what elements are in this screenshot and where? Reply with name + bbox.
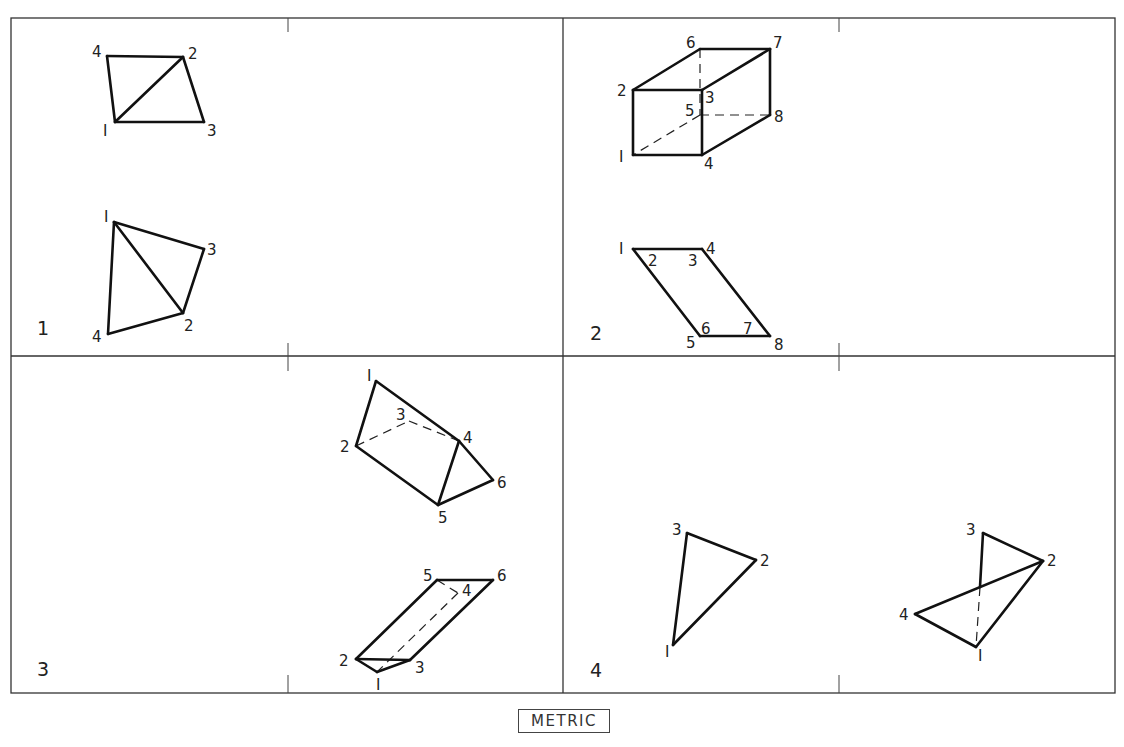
vertex-label: I	[367, 367, 371, 385]
vertex-label: 4	[899, 606, 909, 624]
visible-edge	[983, 533, 1043, 561]
vertex-label: 4	[462, 582, 472, 600]
diagram-canvas: 142I3I3242672358I4I42367583I3426556423I4…	[0, 0, 1124, 747]
vertex-label: I	[665, 643, 669, 661]
visible-edge	[438, 441, 459, 505]
vertex-label: I	[376, 676, 380, 694]
vertex-label: 5	[423, 567, 433, 585]
visible-edge	[702, 49, 770, 90]
panel-2: 2672358I4I4236758	[590, 34, 784, 354]
pictorial-view: 672358I4	[617, 34, 784, 173]
vertex-label: 2	[617, 82, 627, 100]
vertex-label: 2	[760, 552, 770, 570]
visible-edge	[702, 115, 770, 155]
panel-1: 142I3I324	[37, 43, 217, 346]
visible-edge	[356, 446, 438, 505]
visible-edge	[356, 659, 377, 672]
hidden-edge	[356, 421, 409, 446]
panel-4: 432I324I	[590, 521, 1057, 681]
pictorial-view: I34265	[340, 367, 507, 527]
visible-edge	[108, 222, 114, 334]
vertex-label: 8	[774, 108, 784, 126]
vertex-label: 3	[207, 122, 217, 140]
visible-edge	[980, 533, 983, 587]
visible-edge	[673, 560, 756, 645]
vertex-label: 2	[340, 438, 350, 456]
vertex-label: I	[619, 148, 623, 166]
vertex-label: 8	[774, 336, 784, 354]
vertex-label: I	[104, 208, 108, 226]
vertex-label: 3	[672, 521, 682, 539]
vertex-label: 4	[706, 240, 716, 258]
visible-edge	[356, 659, 410, 660]
visible-edge	[915, 614, 976, 647]
vertex-label: 6	[497, 474, 507, 492]
visible-edge	[410, 580, 493, 660]
vertex-label: 4	[463, 429, 473, 447]
vertex-label: 6	[497, 567, 507, 585]
visible-edge	[114, 222, 183, 313]
front-view: 32I	[665, 521, 770, 661]
vertex-label: 6	[686, 34, 696, 52]
visible-edge	[183, 249, 204, 313]
vertex-label: 5	[685, 102, 695, 120]
panel-frame	[11, 18, 1115, 693]
top-view: 56423I	[339, 567, 507, 694]
vertex-label: I	[103, 122, 107, 140]
vertex-label: 2	[1047, 552, 1057, 570]
vertex-label: 3	[415, 659, 425, 677]
metric-label: METRIC	[518, 709, 610, 733]
vertex-label: 5	[686, 334, 696, 352]
vertex-label: 2	[648, 252, 658, 270]
panel-number: 3	[37, 658, 49, 680]
front-view: I324	[92, 208, 217, 346]
visible-edge	[687, 533, 756, 560]
vertex-label: I	[619, 240, 623, 258]
visible-edge	[107, 56, 115, 122]
vertex-label: 4	[92, 43, 102, 61]
visible-edge	[114, 222, 204, 249]
hidden-edge	[437, 580, 458, 593]
vertex-label: 5	[438, 509, 448, 527]
visible-edge	[115, 57, 183, 122]
vertex-label: 2	[339, 652, 349, 670]
vertex-label: 4	[704, 155, 714, 173]
hidden-edge	[633, 115, 700, 155]
hidden-edge	[976, 587, 980, 647]
top-view: 324I	[899, 521, 1057, 665]
visible-edge	[377, 660, 410, 672]
visible-edge	[107, 56, 183, 57]
vertex-label: 4	[92, 328, 102, 346]
vertex-label: 3	[207, 241, 217, 259]
vertex-label: 7	[773, 34, 783, 52]
panel-number: 4	[590, 659, 602, 681]
vertex-label: 3	[688, 252, 698, 270]
top-view: 42I3	[92, 43, 217, 140]
vertex-label: 6	[701, 320, 711, 338]
vertex-label: 2	[188, 45, 198, 63]
visible-edge	[356, 381, 376, 446]
vertex-label: 3	[705, 89, 715, 107]
panel-number: 1	[37, 317, 49, 339]
panels: 142I3I3242672358I4I42367583I3426556423I4…	[37, 34, 1057, 694]
top-view: I4236758	[619, 240, 784, 354]
vertex-label: I	[978, 647, 982, 665]
visible-edge	[108, 313, 183, 334]
vertex-label: 2	[184, 317, 194, 335]
visible-edge	[183, 57, 204, 122]
visible-edge	[702, 249, 770, 336]
vertex-label: 3	[966, 521, 976, 539]
panel-3: 3I3426556423I	[37, 367, 507, 694]
visible-edge	[673, 533, 687, 645]
panel-number: 2	[590, 322, 602, 344]
visible-edge	[633, 49, 700, 90]
visible-edge	[376, 381, 459, 441]
vertex-label: 7	[743, 320, 753, 338]
vertex-label: 3	[396, 406, 406, 424]
